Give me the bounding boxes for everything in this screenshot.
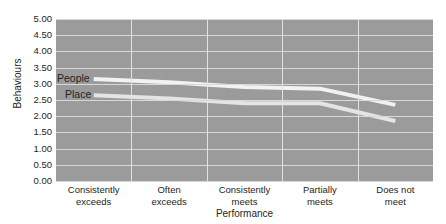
y-axis-tick-label: 3.50 (4, 63, 52, 73)
y-axis-tick-label: 1.50 (4, 127, 52, 137)
y-axis-tick-label: 4.50 (4, 30, 52, 40)
y-axis-tick-label: 5.00 (4, 14, 52, 24)
vertical-gridline (207, 19, 208, 181)
series-label-people: People (57, 73, 90, 84)
horizontal-gridline (56, 35, 433, 36)
y-axis-tick-label: 2.00 (4, 111, 52, 121)
y-axis-tick-label: 4.00 (4, 46, 52, 56)
horizontal-gridline (56, 181, 433, 182)
x-axis-tick-label: Does notmeet (350, 184, 440, 207)
horizontal-gridline (56, 19, 433, 20)
x-axis-tick-label-line: meet (350, 196, 440, 208)
horizontal-gridline (56, 100, 433, 101)
y-axis-tick-label: 1.00 (4, 144, 52, 154)
behaviours-vs-performance-line-chart: Behaviours 5.004.504.003.503.002.502.001… (0, 0, 446, 224)
horizontal-gridline (56, 84, 433, 85)
horizontal-gridline (56, 68, 433, 69)
horizontal-gridline (56, 132, 433, 133)
horizontal-gridline (56, 165, 433, 166)
y-axis-tick-label: 0.50 (4, 160, 52, 170)
vertical-gridline (282, 19, 283, 181)
horizontal-gridline (56, 51, 433, 52)
plot-area (56, 19, 433, 181)
vertical-gridline (131, 19, 132, 181)
series-label-place: Place (65, 89, 91, 100)
top-margin-band (0, 0, 446, 14)
y-axis-tick-label: 2.50 (4, 95, 52, 105)
horizontal-gridline (56, 116, 433, 117)
y-axis-tick-label: 0.00 (4, 176, 52, 186)
horizontal-gridline (56, 149, 433, 150)
vertical-gridline (358, 19, 359, 181)
y-axis-tick-label: 3.00 (4, 79, 52, 89)
y-axis-tick-labels: 5.004.504.003.503.002.502.001.501.000.50… (0, 0, 52, 224)
x-axis-title: Performance (56, 208, 433, 219)
x-axis-tick-label-line: Does not (350, 184, 440, 196)
